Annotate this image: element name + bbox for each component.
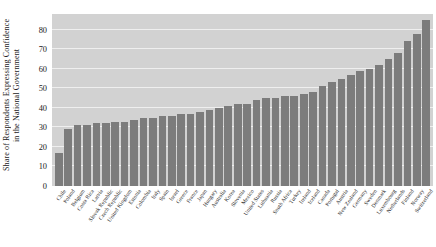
plot-area [52, 14, 433, 186]
bar [413, 34, 421, 186]
bar [140, 118, 148, 186]
bar [394, 53, 402, 186]
y-tick-label: 60 [39, 64, 47, 73]
bar [93, 123, 101, 186]
bar [290, 96, 298, 186]
y-tick-label: 80 [39, 25, 47, 34]
bar [121, 122, 129, 187]
bar-series [52, 14, 433, 186]
bar [215, 108, 223, 186]
bar [168, 116, 176, 186]
bar [375, 65, 383, 186]
bar [177, 114, 185, 186]
bar [404, 41, 412, 186]
bar [196, 112, 204, 186]
bar [356, 71, 364, 186]
y-tick-label: 40 [39, 103, 47, 112]
bar [338, 79, 346, 187]
y-tick-label: 0 [43, 182, 47, 191]
y-tick-label: 50 [39, 84, 47, 93]
bar [347, 75, 355, 186]
bar [111, 122, 119, 187]
x-axis-category-labels: ChilePolandBelgiumCosta RicaLatviaSlovak… [52, 188, 433, 247]
bar [319, 86, 327, 186]
bar [422, 20, 430, 186]
bar [328, 82, 336, 186]
bar [253, 100, 261, 186]
y-axis-title-line-2: in the National Government [12, 0, 21, 190]
bar [130, 120, 138, 186]
bar [281, 96, 289, 186]
bar [262, 98, 270, 186]
bar [102, 123, 110, 186]
bar [64, 129, 72, 186]
bar-chart-figure: Share of Respondents Expressing Confiden… [0, 0, 436, 247]
bar [187, 114, 195, 186]
bar [149, 118, 157, 186]
bar [309, 92, 317, 186]
y-axis-title: Share of Respondents Expressing Confiden… [0, 0, 26, 190]
bar [74, 125, 82, 186]
bar [55, 153, 63, 186]
bar [385, 59, 393, 186]
y-tick-label: 70 [39, 45, 47, 54]
y-tick-label: 30 [39, 123, 47, 132]
bar [366, 69, 374, 186]
bar [243, 104, 251, 186]
y-tick-label: 10 [39, 162, 47, 171]
y-axis-title-line-1: Share of Respondents Expressing Confiden… [2, 0, 11, 190]
bar [224, 106, 232, 186]
bar [234, 104, 242, 186]
bar [300, 94, 308, 186]
bar [83, 125, 91, 186]
bar [272, 98, 280, 186]
y-tick-label: 20 [39, 142, 47, 151]
bar [206, 110, 214, 186]
bar [159, 116, 167, 186]
y-axis-tick-labels: 01020304050607080 [26, 0, 50, 190]
